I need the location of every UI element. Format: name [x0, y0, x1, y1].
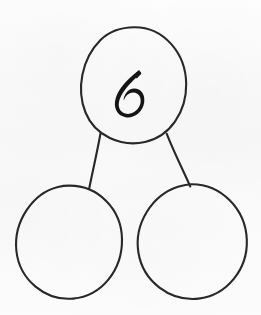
- connector-left-line: [89, 134, 100, 189]
- part-right-node[interactable]: [138, 184, 247, 299]
- part-left-node-circle: [16, 186, 122, 299]
- number-bond-worksheet: 6 Number bond: [0, 0, 261, 315]
- whole-node[interactable]: 6: [81, 27, 186, 143]
- part-left-node[interactable]: [16, 186, 122, 299]
- part-right-node-circle: [138, 184, 247, 299]
- connector-right-line: [167, 134, 191, 187]
- number-bond-diagram: 6: [0, 0, 261, 315]
